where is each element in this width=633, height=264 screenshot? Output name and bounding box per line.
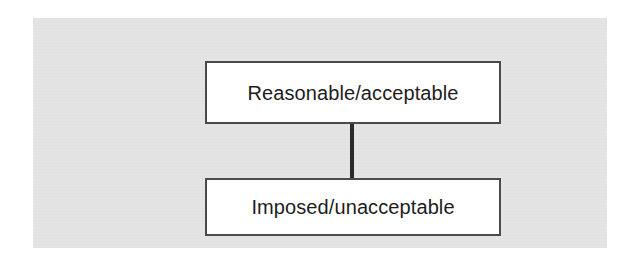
node-box-reasonable-acceptable: Reasonable/acceptable xyxy=(205,61,501,124)
node-label-reasonable-acceptable: Reasonable/acceptable xyxy=(247,83,458,103)
figure-panel: Reasonable/acceptable Imposed/unacceptab… xyxy=(33,18,607,248)
connector-line-reasonable-to-imposed xyxy=(350,122,354,180)
node-box-imposed-unacceptable: Imposed/unacceptable xyxy=(205,178,501,236)
node-label-imposed-unacceptable: Imposed/unacceptable xyxy=(251,197,454,217)
